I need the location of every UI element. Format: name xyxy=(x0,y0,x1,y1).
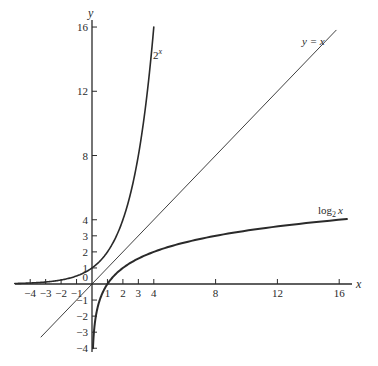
y-axis-label: y xyxy=(87,6,94,20)
curves xyxy=(15,27,347,348)
x-tick-label: 4 xyxy=(151,287,157,299)
function-graph: −4−3−2−1123481216−4−3−2−10123481216 y x … xyxy=(0,0,378,366)
y-tick-label: −3 xyxy=(76,326,88,338)
y-tick-label: −4 xyxy=(76,342,88,354)
y-tick-label: 3 xyxy=(83,230,89,242)
x-tick-label: −2 xyxy=(55,287,67,299)
x-tick-label: 12 xyxy=(272,287,283,299)
log-curve-subscript: 2 xyxy=(332,210,336,219)
labels: y x y = x 2x log2x xyxy=(87,6,362,291)
x-tick-label: −4 xyxy=(24,287,36,299)
x-tick-label: 2 xyxy=(120,287,126,299)
y-tick-label: 2 xyxy=(83,246,89,258)
y-tick-label: 4 xyxy=(83,214,89,226)
exp-curve-exponent: x xyxy=(158,47,163,56)
identity-line-label: y = x xyxy=(301,35,325,47)
log-curve-variable: x xyxy=(337,204,343,216)
axes: −4−3−2−1123481216−4−3−2−10123481216 xyxy=(15,20,352,354)
log-curve-label: log2x xyxy=(318,204,343,219)
y-tick-label: 16 xyxy=(77,21,89,33)
y-tick-label: −1 xyxy=(76,294,88,306)
y-tick-label: 8 xyxy=(83,150,89,162)
x-tick-label: −3 xyxy=(40,287,52,299)
x-axis-label: x xyxy=(355,277,362,291)
x-tick-label: 16 xyxy=(334,287,346,299)
exp-curve-label: 2x xyxy=(153,47,163,61)
y-tick-label: −2 xyxy=(76,310,88,322)
x-tick-label: 3 xyxy=(136,287,142,299)
x-tick-label: 8 xyxy=(213,287,219,299)
identity-line xyxy=(41,30,336,337)
y-tick-label: 12 xyxy=(77,85,88,97)
log-curve-base: log xyxy=(318,204,333,216)
